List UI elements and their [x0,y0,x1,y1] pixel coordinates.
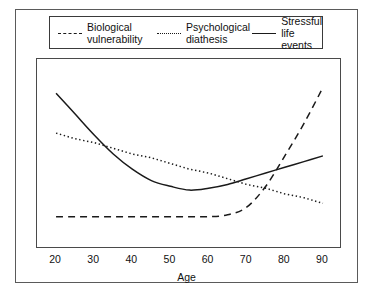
x-tick-label: 30 [78,253,108,265]
x-tick-label: 40 [116,253,146,265]
x-tick-label: 70 [231,253,261,265]
legend-label-psychological-diathesis: Psychological diathesis [186,21,250,45]
legend-item-biological-vulnerability: Biological vulnerability [50,17,155,48]
chart-legend: Biological vulnerability Psychological d… [49,16,323,49]
plot-area [36,58,341,248]
x-tick-label: 50 [154,253,184,265]
dashed-line-sample-icon [58,27,82,39]
figure-frame: Biological vulnerability Psychological d… [15,9,358,283]
curve-stressful-life-events [56,93,323,190]
chart-curves [37,59,342,249]
x-axis-tick-labels: 2030405060708090 [31,253,351,269]
legend-label-stressful-life-events: Stressful life events [281,15,322,51]
x-axis-title: Age [16,271,357,283]
legend-label-biological-vulnerability: Biological vulnerability [87,21,142,45]
solid-line-sample-icon [252,27,276,39]
curve-biological-vulnerability [56,88,323,217]
x-tick-label: 80 [269,253,299,265]
x-tick-label: 20 [40,253,70,265]
x-tick-label: 90 [307,253,337,265]
legend-item-psychological-diathesis: Psychological diathesis [155,17,250,48]
legend-item-stressful-life-events: Stressful life events [250,17,322,48]
series-layer [56,88,323,217]
x-tick-label: 60 [193,253,223,265]
dotted-line-sample-icon [157,27,181,39]
